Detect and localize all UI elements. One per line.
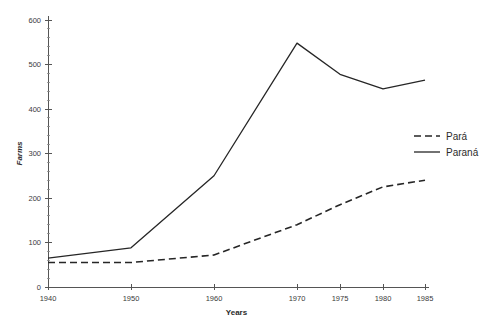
- line-chart: 0100200300400500600 19401950196019701975…: [0, 0, 494, 325]
- y-axis-title: Farms: [15, 141, 24, 166]
- x-axis-title: Years: [226, 308, 248, 317]
- series-line-para: [48, 180, 425, 262]
- y-tick-label: 200: [28, 194, 41, 203]
- x-tick-label: 1950: [123, 294, 140, 303]
- x-axis-tick-labels: 1940195019601970197519801985: [40, 294, 434, 303]
- legend-label-parana: Paraná: [446, 147, 479, 158]
- y-tick-label: 500: [28, 60, 41, 69]
- x-tick-label: 1970: [289, 294, 306, 303]
- x-tick-label: 1960: [206, 294, 223, 303]
- x-tick-label: 1980: [375, 294, 392, 303]
- chart-container: 0100200300400500600 19401950196019701975…: [0, 0, 494, 325]
- y-tick-label: 0: [37, 283, 41, 292]
- chart-legend: Pará Paraná: [414, 131, 479, 158]
- y-tick-label: 100: [28, 238, 41, 247]
- legend-label-para: Pará: [446, 131, 468, 142]
- series-line-parana: [48, 43, 425, 258]
- y-tick-label: 400: [28, 105, 41, 114]
- y-tick-label: 600: [28, 16, 41, 25]
- x-tick-label: 1975: [332, 294, 349, 303]
- x-tick-label: 1940: [40, 294, 57, 303]
- y-axis-tick-labels: 0100200300400500600: [28, 16, 41, 292]
- y-tick-label: 300: [28, 149, 41, 158]
- x-tick-label: 1985: [417, 294, 434, 303]
